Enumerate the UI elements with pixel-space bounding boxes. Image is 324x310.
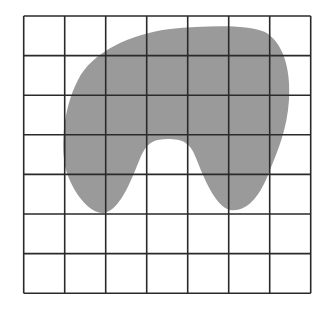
irregular-shape <box>63 26 289 213</box>
grid-diagram <box>0 0 324 310</box>
